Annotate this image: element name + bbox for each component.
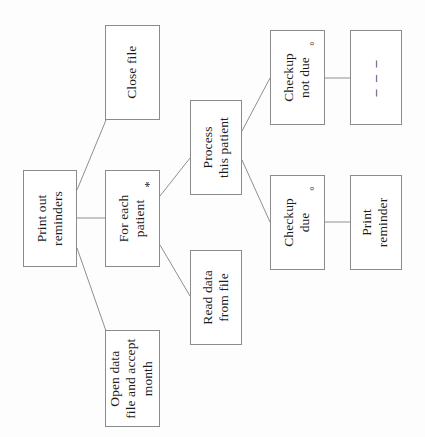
connector-root-to-close-file [77,120,106,190]
node-read-data-from-file[interactable]: Read datafrom file [190,250,242,345]
node-label-checkup-not-due: Checkupnot due [281,53,314,102]
node-checkup-due[interactable]: Checkupdue° [270,175,325,270]
node-open-data-file-and-accept-month[interactable]: Open datafile and acceptmonth [105,330,160,427]
node-close-file[interactable]: Close file [105,25,160,120]
node-label-print-reminder: Printreminder [360,198,393,248]
node-process-this-patient[interactable]: Processthis patient [190,100,242,195]
node-label-open-data-file-and-accept-month: Open datafile and acceptmonth [108,338,157,418]
node-checkup-not-due[interactable]: Checkupnot due° [270,30,325,125]
iteration-marker-icon-for-each-patient: * [141,181,154,188]
node-label-for-each-patient: For eachpatient [116,195,149,243]
selection-marker-icon-checkup-due: ° [308,186,319,190]
node-empty-dashes[interactable]: – – – [350,30,402,125]
node-label-close-file: Close file [124,46,140,99]
node-label-read-data-from-file: Read datafrom file [200,270,233,325]
node-label-process-this-patient: Processthis patient [200,117,233,178]
connector-process-to-not-due [242,78,270,131]
connector-foreach-to-process [160,158,190,196]
structure-chart-diagram: Print outremindersClose fileFor eachpati… [0,0,425,437]
node-label-empty-dashes: – – – [367,58,384,96]
connector-root-to-open-data [77,248,106,331]
connector-foreach-to-read-data [160,245,190,296]
selection-marker-icon-checkup-not-due: ° [308,41,319,45]
node-label-print-out-reminders: Print outreminders [34,191,67,246]
node-label-checkup-due: Checkupdue [281,198,314,247]
node-print-out-reminders[interactable]: Print outreminders [23,170,77,267]
connector-process-to-due [242,160,270,222]
node-for-each-patient[interactable]: For eachpatient* [105,170,160,267]
node-print-reminder[interactable]: Printreminder [350,175,402,270]
